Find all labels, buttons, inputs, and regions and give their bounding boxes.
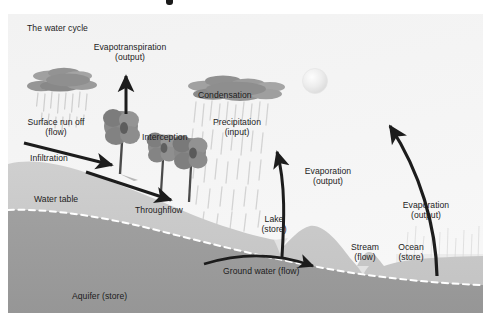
label-condensation: Condensation bbox=[198, 90, 252, 100]
label-evaporation-lake: Evaporation (output) bbox=[305, 166, 351, 187]
cropped-title-fragment bbox=[166, 0, 173, 5]
label-ground-water: Ground water (flow) bbox=[223, 266, 299, 276]
water-cycle-diagram: The water cycle Evapotranspiration (outp… bbox=[8, 14, 483, 313]
label-water-table: Water table bbox=[34, 194, 78, 204]
sun-icon bbox=[303, 69, 328, 94]
label-infiltration: Infiltration bbox=[30, 153, 68, 163]
label-precipitation: Precipitation (input) bbox=[213, 117, 261, 138]
label-evapotranspiration: Evapotranspiration (output) bbox=[94, 42, 167, 63]
label-throughflow: Throughflow bbox=[135, 205, 183, 215]
label-evaporation-ocean: Evaporation (output) bbox=[403, 200, 449, 221]
screenshot-canvas: The water cycle Evapotranspiration (outp… bbox=[0, 0, 491, 329]
diagram-title: The water cycle bbox=[27, 23, 88, 33]
label-surface-runoff: Surface run off (flow) bbox=[28, 117, 85, 138]
label-stream: Stream (flow) bbox=[351, 242, 379, 263]
label-interception: Interception bbox=[142, 132, 188, 142]
label-lake: Lake (store) bbox=[261, 214, 286, 235]
label-ocean: Ocean (store) bbox=[398, 242, 424, 263]
label-aquifer: Aquifer (store) bbox=[72, 291, 127, 301]
